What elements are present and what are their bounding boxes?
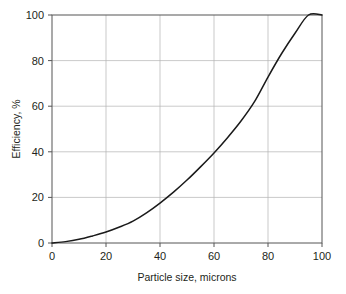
x-axis-title: Particle size, microns xyxy=(137,271,236,283)
y-tick-label: 60 xyxy=(32,100,44,112)
y-tick-label: 100 xyxy=(26,9,44,21)
y-tick-label: 80 xyxy=(32,55,44,67)
y-tick-label: 20 xyxy=(32,191,44,203)
y-axis-title: Efficiency, % xyxy=(10,99,22,158)
x-tick-label: 100 xyxy=(313,250,331,262)
y-tick-label: 40 xyxy=(32,146,44,158)
x-tick-label: 80 xyxy=(262,250,274,262)
y-tick-label: 0 xyxy=(38,237,44,249)
x-tick-label: 40 xyxy=(154,250,166,262)
x-tick-label: 60 xyxy=(208,250,220,262)
x-tick-label: 0 xyxy=(49,250,55,262)
chart-svg: 020406080100 020406080100 Particle size,… xyxy=(0,0,346,294)
x-tick-label: 20 xyxy=(100,250,112,262)
chart-figure: 020406080100 020406080100 Particle size,… xyxy=(0,0,346,294)
